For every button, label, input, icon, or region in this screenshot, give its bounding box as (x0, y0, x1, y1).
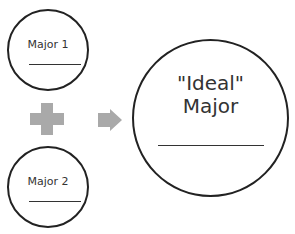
major-2-blank-line (29, 201, 81, 202)
major-1-label: Major 1 (9, 38, 87, 51)
arrow-right-icon (98, 109, 122, 131)
major-2-label: Major 2 (9, 175, 87, 188)
ideal-major-blank-line (158, 145, 264, 146)
major-1-circle: Major 1 (7, 9, 89, 91)
ideal-label-line2: Major (134, 95, 287, 118)
major-2-circle: Major 2 (7, 146, 89, 228)
plus-icon (30, 103, 64, 135)
major-1-blank-line (29, 64, 81, 65)
ideal-major-circle: "Ideal" Major (132, 39, 289, 197)
ideal-major-label: "Ideal" Major (134, 72, 287, 118)
ideal-label-line1: "Ideal" (134, 72, 287, 95)
